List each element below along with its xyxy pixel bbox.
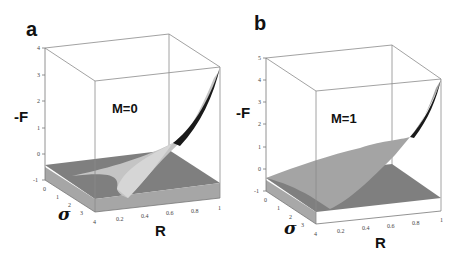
svg-text:0.4: 0.4 <box>362 225 370 231</box>
box-top-front <box>45 48 220 81</box>
svg-text:3: 3 <box>258 99 261 105</box>
svg-text:2: 2 <box>258 121 261 127</box>
svg-text:1: 1 <box>37 125 40 131</box>
panel-label-a: a <box>26 18 38 40</box>
svg-text:2: 2 <box>37 98 40 104</box>
box-top-back <box>266 45 441 79</box>
svg-text:-1: -1 <box>254 188 259 194</box>
svg-text:0.8: 0.8 <box>191 208 199 214</box>
svg-text:4: 4 <box>314 231 317 237</box>
svg-text:-1: -1 <box>33 177 38 183</box>
svg-text:0: 0 <box>258 166 261 172</box>
svg-text:1: 1 <box>218 205 221 211</box>
annotation-m1: M=1 <box>331 111 357 126</box>
svg-text:4: 4 <box>258 77 261 83</box>
z-ticks: -1 0 1 2 3 4 5 <box>254 55 266 194</box>
svg-text:4: 4 <box>37 45 40 51</box>
svg-text:3: 3 <box>80 210 83 216</box>
svg-text:4: 4 <box>93 219 96 225</box>
svg-text:1: 1 <box>258 144 261 150</box>
r-axis-label: R <box>375 234 386 251</box>
svg-text:0.4: 0.4 <box>141 213 149 219</box>
r-ticks: 0.2 0.4 0.6 0.8 1 <box>337 217 443 234</box>
svg-text:0.2: 0.2 <box>116 216 124 222</box>
svg-text:3: 3 <box>37 72 40 78</box>
sigma-axis-label: σ <box>284 218 297 238</box>
r-axis-label: R <box>155 222 166 239</box>
box-top-front <box>266 58 441 91</box>
svg-text:0: 0 <box>37 151 40 157</box>
svg-text:1: 1 <box>56 194 59 200</box>
panel-label-b: b <box>254 12 266 34</box>
surface-curved-dark <box>173 67 220 146</box>
panel-a: a -1 0 1 2 3 4 -F 0 1 <box>14 18 221 239</box>
box-top-back <box>45 34 220 67</box>
svg-text:0.8: 0.8 <box>412 220 420 226</box>
sigma-axis-label: σ <box>58 204 71 224</box>
svg-text:0.2: 0.2 <box>337 228 345 234</box>
svg-text:0: 0 <box>264 197 267 203</box>
z-ticks: -1 0 1 2 3 4 <box>33 45 45 183</box>
z-axis-label: -F <box>236 104 250 121</box>
svg-text:1: 1 <box>277 205 280 211</box>
z-axis-label: -F <box>14 108 28 125</box>
svg-text:0.6: 0.6 <box>387 223 395 229</box>
r-axis <box>316 211 441 224</box>
svg-text:3: 3 <box>301 222 304 228</box>
svg-text:0.6: 0.6 <box>166 210 174 216</box>
annotation-m0: M=0 <box>112 101 138 116</box>
figure-canvas: a -1 0 1 2 3 4 -F 0 1 <box>0 0 458 260</box>
svg-text:1: 1 <box>440 217 443 223</box>
svg-text:0: 0 <box>43 186 46 192</box>
panel-b: b -1 0 1 2 3 4 5 -F 0 1 2 <box>236 12 443 251</box>
svg-text:5: 5 <box>258 55 261 61</box>
